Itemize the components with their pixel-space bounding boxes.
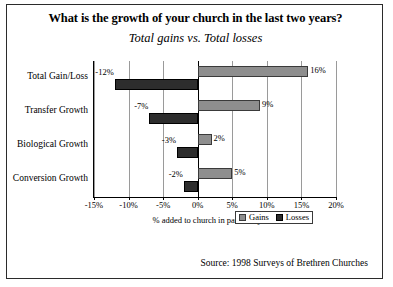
x-tick-label: 5% (227, 200, 238, 210)
bar-value-label-gain: 9% (262, 99, 273, 109)
legend-swatch-gains (239, 214, 246, 221)
legend-item-losses: Losses (276, 213, 309, 222)
x-tick-label: -5% (156, 200, 170, 210)
x-tick-label: 15% (294, 200, 310, 210)
plot-area: -15%-10%-5%0%5%10%15%20%Total Gain/Loss1… (93, 61, 336, 198)
x-tick-label: 0% (192, 200, 203, 210)
category-label: Biological Growth (17, 139, 88, 149)
category-label: Total Gain/Loss (27, 71, 88, 81)
bar-gain (198, 100, 260, 111)
gridline-15 (301, 61, 302, 197)
gridline-20 (336, 61, 337, 197)
bar-loss (184, 181, 198, 192)
bar-value-label-loss: -3% (162, 135, 176, 145)
x-tick-label: 20% (328, 200, 344, 210)
bar-value-label-loss: -12% (95, 67, 113, 77)
category-label: Conversion Growth (13, 173, 88, 183)
chart-frame: What is the growth of your church in the… (6, 4, 383, 279)
bar-gain (198, 134, 212, 145)
x-tick-label: 10% (259, 200, 275, 210)
source-note: Source: 1998 Surveys of Brethren Churche… (200, 258, 368, 268)
legend-label-losses: Losses (286, 213, 309, 222)
x-tick-label: -15% (85, 200, 103, 210)
bar-value-label-gain: 2% (214, 133, 225, 143)
legend-label-gains: Gains (249, 213, 269, 222)
bar-value-label-loss: -2% (169, 169, 183, 179)
bar-gain (198, 66, 309, 77)
bar-value-label-loss: -7% (134, 101, 148, 111)
bar-value-label-gain: 5% (234, 167, 245, 177)
bar-loss (177, 147, 198, 158)
bar-gain (198, 168, 233, 179)
gridline-10 (267, 61, 268, 197)
chart-title: What is the growth of your church in the… (7, 11, 384, 26)
x-tick-label: -10% (119, 200, 137, 210)
category-label: Transfer Growth (25, 105, 88, 115)
gridline-5 (232, 61, 233, 197)
bar-loss (115, 79, 198, 90)
gridline--15 (94, 61, 95, 197)
legend-swatch-losses (276, 214, 283, 221)
bar-value-label-gain: 16% (310, 65, 326, 75)
bar-loss (149, 113, 197, 124)
chart-subtitle: Total gains vs. Total losses (7, 31, 384, 46)
legend-item-gains: Gains (239, 213, 269, 222)
chart-legend: Gains Losses (235, 211, 313, 224)
